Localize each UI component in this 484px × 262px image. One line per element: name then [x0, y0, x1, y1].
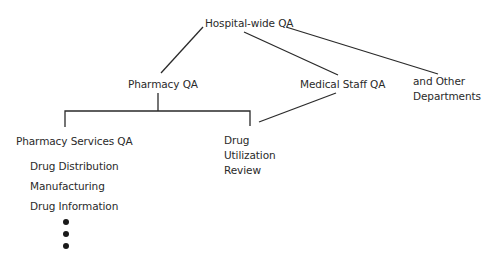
node-medical-staff-qa: Medical Staff QA — [300, 77, 385, 92]
dur-line-3: Review — [224, 163, 276, 178]
edge-root-pharmacy — [161, 27, 203, 73]
item-drug-information: Drug Information — [30, 199, 118, 214]
edge-medical-dur — [259, 93, 336, 122]
node-hospital-wide-qa: Hospital-wide QA — [205, 16, 293, 31]
dur-line-2: Utilization — [224, 148, 276, 163]
node-pharmacy-qa: Pharmacy QA — [128, 77, 198, 92]
node-other-departments: and Other Departments — [413, 74, 481, 104]
other-line-1: and Other — [413, 74, 481, 89]
bullet-dot-icon — [63, 231, 69, 237]
item-drug-distribution: Drug Distribution — [30, 159, 119, 174]
dur-line-1: Drug — [224, 133, 276, 148]
bullet-dot-icon — [63, 219, 69, 225]
node-drug-utilization-review: Drug Utilization Review — [224, 133, 276, 178]
node-pharmacy-services-qa: Pharmacy Services QA — [16, 134, 133, 149]
other-line-2: Departments — [413, 89, 481, 104]
bullet-dot-icon — [63, 243, 69, 249]
edge-pharmacy-branches — [65, 111, 250, 127]
edge-root-other — [286, 27, 438, 74]
item-manufacturing: Manufacturing — [30, 179, 105, 194]
connector-lines — [0, 0, 484, 262]
